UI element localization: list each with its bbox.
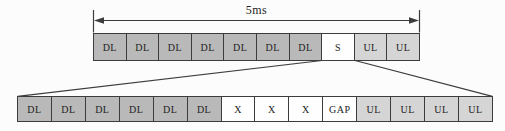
frame-cell-ul: UL (357, 97, 391, 121)
left-arrowhead-icon (94, 17, 104, 23)
duration-label: 5ms (93, 3, 420, 17)
frame-cell-x: X (255, 97, 289, 121)
frame-cell-dl: DL (127, 34, 160, 60)
frame-row-top: DLDLDLDLDLDLDLSULUL (93, 33, 420, 61)
frame-cell-x: X (222, 97, 256, 121)
frame-cell-dl: DL (120, 97, 154, 121)
frame-row-bottom: DLDLDLDLDLDLXXXGAPULULULUL (17, 96, 493, 122)
frame-cell-dl: DL (257, 34, 290, 60)
frame-cell-dl: DL (154, 97, 188, 121)
frame-cell-dl: DL (224, 34, 257, 60)
frame-cell-dl: DL (52, 97, 86, 121)
frame-cell-x: X (289, 97, 323, 121)
frame-cell-s: S (322, 34, 355, 60)
frame-cell-dl: DL (86, 97, 120, 121)
frame-cell-dl: DL (18, 97, 52, 121)
frame-cell-dl: DL (94, 34, 127, 60)
frame-structure-diagram: 5ms DLDLDLDLDLDLDLSULUL DLDLDLDLDLDLXXXG… (0, 0, 505, 131)
expansion-line-right (355, 61, 492, 97)
frame-cell-ul: UL (425, 97, 459, 121)
frame-cell-ul: UL (391, 97, 425, 121)
frame-cell-ul: UL (459, 97, 492, 121)
frame-cell-dl: DL (192, 34, 225, 60)
frame-cell-dl: DL (188, 97, 222, 121)
frame-cell-ul: UL (387, 34, 419, 60)
frame-cell-gap: GAP (323, 97, 357, 121)
expansion-line-left (18, 61, 322, 97)
right-arrowhead-icon (409, 17, 419, 23)
frame-cell-dl: DL (159, 34, 192, 60)
frame-cell-ul: UL (355, 34, 388, 60)
frame-cell-dl: DL (290, 34, 323, 60)
